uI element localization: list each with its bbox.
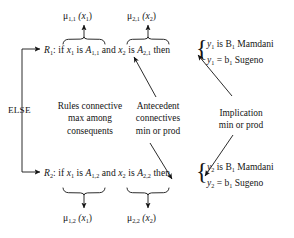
rule-1-statement: R1: if x1 is A1,1 and x2 is A2,1 then (44, 44, 170, 55)
rule2-antecedent-braces (63, 188, 169, 196)
membership-label-mu-2-1: μ2,1 (x2) (127, 10, 156, 21)
rule-2-consequent-brace: { (196, 159, 208, 183)
rule-1-consequent-brace: { (196, 36, 208, 60)
rule-2-consequent-mamdani: y2 is B1 Mamdani (207, 163, 274, 173)
rule-2-statement: R2: if x1 is A1,2 and x2 is A2,2 then (44, 167, 170, 178)
rule-1-consequent-mamdani: y1 is B1 Mamdani (207, 40, 274, 50)
membership-label-mu-1-1: μ1,1 (x1) (63, 10, 92, 21)
else-label: ELSE (8, 105, 31, 116)
annotation-implication-line2: min or prod (198, 119, 284, 131)
membership-label-mu-2-2: μ2,2 (x2) (127, 212, 156, 223)
annotation-antecedent: Antecedent connectives min or prod (118, 100, 198, 137)
rule-2-consequent-sugeno: y2 = b1 Sugeno (207, 179, 263, 189)
annotation-implication-line1: Implication (198, 107, 284, 119)
rule1-antecedent-braces (63, 36, 169, 44)
rule-1-consequent-sugeno: y1 = b1 Sugeno (207, 56, 263, 66)
membership-label-mu-1-2: μ1,2 (x1) (63, 212, 92, 223)
annotation-implication: Implication min or prod (198, 107, 284, 132)
figure-canvas: μ1,1 (x1) μ2,1 (x2) R1: if x1 is A1,1 an… (0, 0, 294, 238)
rule1-membership-arrows (84, 25, 148, 36)
annotation-antecedent-line1: Antecedent (118, 100, 198, 112)
rule2-membership-arrows (84, 196, 148, 208)
annotation-antecedent-line2: connectives (118, 112, 198, 124)
annotation-antecedent-line3: min or prod (118, 125, 198, 137)
